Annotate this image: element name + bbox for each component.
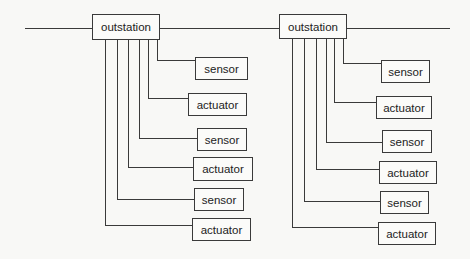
outstation-box: outstation [92,14,160,40]
connector-vertical [105,40,106,226]
connector-vertical [316,39,317,170]
sensor-label: sensor [202,194,237,206]
connector-horizontal [148,98,188,99]
actuator-node: actuator [378,222,436,245]
connector-horizontal [128,167,193,168]
connector-horizontal [304,201,380,202]
connector-horizontal [316,169,379,170]
connector-horizontal [105,225,192,226]
connector-vertical [128,40,129,168]
sensor-node: sensor [382,130,432,153]
actuator-node: actuator [193,157,253,181]
connector-vertical [334,39,335,103]
connector-vertical [304,39,305,202]
connector-horizontal [326,142,382,143]
connector-vertical [343,39,344,64]
connector-vertical [148,40,149,99]
outstation-label: outstation [288,21,338,33]
connector-horizontal [343,63,381,64]
actuator-label: actuator [202,163,244,175]
actuator-node: actuator [192,218,251,241]
connector-horizontal [292,227,378,228]
outstation-box: outstation [279,14,347,39]
connector-vertical [292,39,293,228]
sensor-label: sensor [388,66,423,78]
actuator-node: actuator [376,96,432,119]
sensor-node: sensor [195,57,248,80]
outstation-label: outstation [101,21,151,33]
connector-vertical [139,40,140,139]
sensor-label: sensor [390,136,425,148]
connector-horizontal [334,102,376,103]
sensor-node: sensor [197,128,247,151]
connector-vertical [326,39,327,143]
connector-vertical [117,40,118,200]
sensor-node: sensor [194,188,244,211]
actuator-label: actuator [201,224,243,236]
sensor-label: sensor [387,197,422,209]
connector-vertical [157,40,158,61]
connector-horizontal [117,199,194,200]
actuator-node: actuator [188,93,247,116]
sensor-label: sensor [204,63,239,75]
actuator-node: actuator [379,161,437,184]
connector-horizontal [139,138,197,139]
actuator-label: actuator [386,228,428,240]
bus-line [25,28,450,29]
sensor-label: sensor [205,134,240,146]
connector-horizontal [157,60,195,61]
actuator-label: actuator [387,167,429,179]
diagram-canvas: outstation sensor actuator sensor actuat… [0,0,470,259]
sensor-node: sensor [380,191,429,214]
actuator-label: actuator [383,102,425,114]
sensor-node: sensor [381,60,430,83]
actuator-label: actuator [197,99,239,111]
